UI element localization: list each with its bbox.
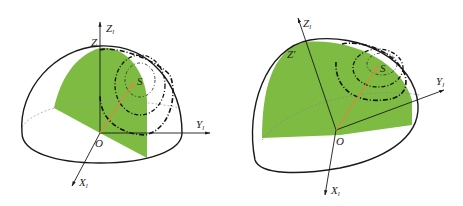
- left-y-label: Yl: [196, 118, 204, 132]
- right-z-prime-label: Z': [287, 48, 296, 60]
- left-x-label: Xl: [78, 176, 88, 190]
- left-hemisphere-diagram: Zl Z Yl Xl O S: [22, 22, 210, 190]
- right-origin-label: O: [336, 135, 344, 147]
- right-z-label: Zl: [303, 17, 311, 31]
- right-y-label: Yl: [436, 75, 444, 89]
- left-point-s-label: S: [137, 75, 143, 87]
- right-hemisphere-diagram: Zl Z' Yl Xl O S: [252, 17, 444, 198]
- left-z-prime-label: Z: [91, 36, 98, 48]
- left-origin-label: O: [95, 137, 103, 149]
- right-x-label: Xl: [330, 184, 340, 198]
- right-point-s-label: S: [380, 62, 386, 74]
- left-z-label: Zl: [106, 22, 114, 36]
- diagram-canvas: Zl Z Yl Xl O S Zl Z' Yl Xl O S: [0, 0, 463, 206]
